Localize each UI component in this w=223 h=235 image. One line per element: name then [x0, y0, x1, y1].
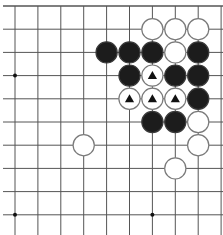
black-stone-body [119, 42, 140, 63]
black-stone[interactable] [142, 42, 163, 63]
white-stone-body [165, 19, 186, 40]
black-stone[interactable] [188, 88, 209, 109]
black-stone-body [188, 65, 209, 86]
black-stone[interactable] [142, 111, 163, 132]
white-stone-body [188, 19, 209, 40]
star-point [13, 74, 17, 78]
white-stone[interactable] [142, 88, 163, 109]
black-stone[interactable] [188, 65, 209, 86]
black-stone[interactable] [165, 65, 186, 86]
white-stone[interactable] [119, 88, 140, 109]
white-stone[interactable] [188, 111, 209, 132]
black-stone-body [142, 111, 163, 132]
white-stone-body [165, 158, 186, 179]
go-board [0, 0, 223, 235]
white-stone-body [142, 19, 163, 40]
black-stone-body [188, 88, 209, 109]
white-stone[interactable] [165, 88, 186, 109]
black-stone-body [119, 65, 140, 86]
star-point [13, 213, 17, 217]
black-stone[interactable] [188, 42, 209, 63]
black-stone-body [165, 65, 186, 86]
black-stone[interactable] [165, 111, 186, 132]
white-stone[interactable] [165, 42, 186, 63]
white-stone[interactable] [142, 65, 163, 86]
white-stone[interactable] [188, 19, 209, 40]
black-stone[interactable] [119, 65, 140, 86]
white-stone-body [73, 135, 94, 156]
white-stone-body [188, 135, 209, 156]
black-stone-body [188, 42, 209, 63]
black-stone-body [96, 42, 117, 63]
black-stone[interactable] [96, 42, 117, 63]
white-stone[interactable] [165, 158, 186, 179]
white-stone-body [188, 111, 209, 132]
black-stone-body [142, 42, 163, 63]
white-stone[interactable] [188, 135, 209, 156]
white-stone-body [165, 42, 186, 63]
white-stone[interactable] [142, 19, 163, 40]
black-stone[interactable] [119, 42, 140, 63]
black-stone-body [165, 111, 186, 132]
star-point [150, 213, 154, 217]
white-stone[interactable] [73, 135, 94, 156]
white-stone[interactable] [165, 19, 186, 40]
